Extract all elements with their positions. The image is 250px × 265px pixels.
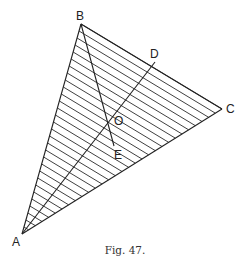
figure-caption: Fig. 47. — [0, 244, 250, 256]
label-E: E — [114, 148, 122, 162]
triangle-figure: B D C O E A — [0, 0, 250, 265]
label-B: B — [76, 9, 84, 23]
label-C: C — [226, 102, 235, 116]
label-D: D — [150, 47, 159, 61]
segment-AD — [22, 62, 155, 234]
label-O: O — [114, 114, 123, 128]
